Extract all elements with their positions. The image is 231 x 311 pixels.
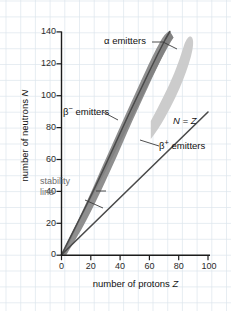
beta-plus-leader-line	[140, 140, 159, 146]
y-axis-ticks	[57, 32, 62, 255]
y-axis-title-symbol: N	[19, 90, 30, 97]
y-tick-label-60: 60	[31, 155, 56, 164]
figure-nuclear-stability-chart: 140 120 100 80 60 40 20 0 0 20 40 60 80 …	[0, 0, 231, 311]
annotation-stability-line-2: line	[40, 188, 54, 197]
y-axis-title: number of neutrons N	[19, 66, 30, 206]
x-axis-ticks	[62, 255, 209, 260]
x-axis-title: number of protons Z	[62, 279, 210, 289]
y-axis-title-text: number of neutrons	[19, 96, 30, 181]
beta-minus-emitters-text: emitters	[73, 106, 109, 117]
x-axis-title-symbol: Z	[172, 278, 178, 289]
y-tick-label-120: 120	[31, 59, 56, 68]
x-tick-label-100: 100	[198, 262, 220, 271]
y-tick-label-80: 80	[31, 123, 56, 132]
y-tick-label-0: 0	[31, 250, 56, 259]
x-tick-label-60: 60	[139, 262, 159, 271]
beta-plus-emitters-text: emitters	[169, 140, 205, 151]
x-tick-label-40: 40	[110, 262, 130, 271]
x-tick-label-20: 20	[81, 262, 101, 271]
n-equals-z-line	[62, 112, 209, 255]
annotation-beta-minus-emitters: β− emitters	[63, 105, 109, 117]
x-axis-title-text: number of protons	[93, 278, 173, 289]
annotation-beta-plus-emitters: β+ emitters	[159, 139, 205, 151]
y-tick-label-20: 20	[31, 219, 56, 228]
x-tick-label-0: 0	[52, 262, 72, 271]
annotation-stability-line-1: stability	[40, 177, 70, 186]
y-tick-label-100: 100	[31, 91, 56, 100]
annotation-alpha-emitters: α emitters	[104, 36, 146, 46]
x-tick-label-80: 80	[169, 262, 189, 271]
annotation-n-equals-z: N = Z	[173, 116, 197, 126]
y-tick-label-140: 140	[31, 27, 56, 36]
